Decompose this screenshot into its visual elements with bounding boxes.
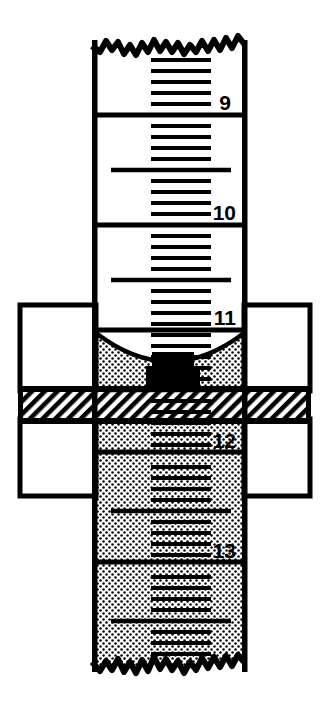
card-left-lower [20,419,96,496]
tube-wall-left [92,40,98,672]
card-right-lower [244,419,310,496]
band-left-edge [18,386,23,424]
card-left-upper [20,305,96,391]
scale-label-11: 11 [214,306,237,329]
tube-wall-right [242,40,248,672]
scale-label-13: 13 [213,539,236,562]
scale-label-12: 12 [213,429,236,452]
meniscus-bottom-block [152,352,194,368]
scale-label-10: 10 [213,201,236,224]
figure-canvas: 9 10 11 12 13 [0,0,322,705]
burette-diagram: 9 10 11 12 13 [0,0,322,705]
meniscus-shadow-block [146,366,200,390]
band-right-edge [306,386,311,424]
card-right-upper [244,305,310,391]
scale-label-9: 9 [219,91,231,114]
